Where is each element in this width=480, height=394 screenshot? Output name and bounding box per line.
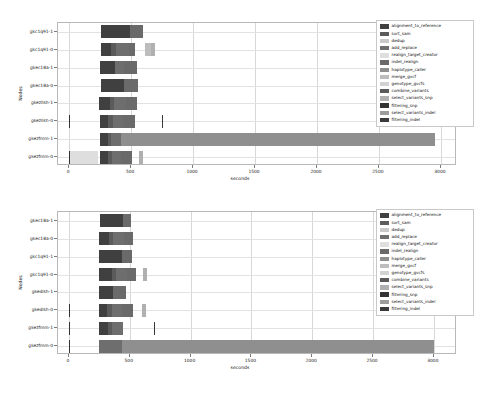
bottom-y-axis-label: Nodes: [18, 275, 23, 289]
legend-item: add_replace: [380, 234, 470, 241]
top-x-axis-label: seconds: [0, 176, 480, 181]
legend-item: genotype_gvcfs: [380, 81, 470, 88]
bar-segment: [100, 115, 108, 128]
x-tick-label: 2500: [366, 358, 377, 363]
legend-label: alignment_to_reference: [392, 213, 442, 217]
bar-segment: [100, 133, 108, 146]
legend-label: dedup: [392, 39, 405, 43]
y-tick-label: gkezfmm-1: [21, 325, 53, 330]
legend-label: sort_sam: [392, 221, 411, 225]
legend-swatch: [380, 75, 389, 79]
y-tick-mark: [54, 138, 57, 139]
legend-swatch: [380, 249, 389, 253]
legend-item: combine_variants: [380, 88, 470, 95]
legend-swatch: [380, 60, 389, 64]
legend-swatch: [380, 228, 389, 232]
legend-item: select_variants_snp: [380, 95, 470, 102]
legend-label: merge_gvcf: [392, 75, 417, 79]
legend-swatch: [380, 32, 389, 36]
bar-segment: [113, 232, 123, 245]
bar-segment: [69, 151, 70, 164]
bar-segment: [69, 322, 70, 335]
legend-item: sort_sam: [380, 30, 470, 37]
bar-row: [58, 133, 455, 146]
bar-row: [58, 151, 455, 164]
y-tick-label: gkc1q91-0: [21, 271, 53, 276]
top-legend: alignment_to_referencesort_samdedupadd_r…: [376, 20, 474, 127]
y-tick-label: gkezfmm-0: [21, 154, 53, 159]
x-tick-label: 1500: [245, 358, 256, 363]
legend-swatch: [380, 300, 389, 304]
x-tick-mark: [68, 354, 69, 357]
y-tick-label: gkedlsh-0: [21, 307, 53, 312]
bar-segment: [69, 304, 70, 317]
legend-swatch: [380, 24, 389, 28]
y-tick-label: gkedlsh-1: [21, 289, 53, 294]
bar-segment: [139, 151, 143, 164]
legend-item: dedup: [380, 226, 470, 233]
x-tick-mark: [250, 354, 251, 357]
x-tick-mark: [316, 165, 317, 168]
bar-segment: [101, 79, 124, 92]
y-tick-mark: [54, 345, 57, 346]
bar-segment: [124, 61, 136, 74]
bar-segment: [101, 25, 130, 38]
figure-page: 050010001500200025003000gkc1q91-1gkc1q91…: [0, 0, 480, 394]
legend-item: filtering_indel: [380, 305, 470, 312]
y-tick-mark: [54, 309, 57, 310]
top-y-axis-label: Nodes: [18, 86, 23, 100]
legend-label: haplotype_caller: [392, 68, 427, 72]
bar-segment: [124, 79, 138, 92]
x-tick-label: 3000: [434, 169, 445, 174]
legend-label: filtering_indel: [392, 118, 421, 122]
legend-swatch: [380, 271, 389, 275]
y-tick-mark: [54, 31, 57, 32]
x-tick-label: 2500: [372, 169, 383, 174]
legend-label: combine_variants: [392, 89, 429, 93]
y-tick-mark: [54, 274, 57, 275]
x-tick-mark: [378, 165, 379, 168]
bar-segment: [115, 61, 124, 74]
bar-segment: [121, 133, 436, 146]
bar-segment: [69, 340, 70, 353]
x-tick-label: 2000: [310, 169, 321, 174]
legend-item: filtering_snp: [380, 102, 470, 109]
bar-segment: [142, 304, 146, 317]
x-tick-mark: [254, 165, 255, 168]
legend-label: dedup: [392, 228, 405, 232]
x-tick-mark: [311, 354, 312, 357]
legend-item: merge_gvcf: [380, 73, 470, 80]
x-tick-label: 2000: [306, 358, 317, 363]
y-tick-mark: [54, 85, 57, 86]
bar-segment: [116, 43, 129, 56]
bar-segment: [100, 214, 123, 227]
y-tick-mark: [54, 102, 57, 103]
y-tick-mark: [54, 156, 57, 157]
legend-item: haplotype_caller: [380, 255, 470, 262]
x-tick-label: 3000: [427, 358, 438, 363]
legend-swatch: [380, 257, 389, 261]
legend-label: alignment_to_reference: [392, 24, 442, 28]
legend-label: add_replace: [392, 46, 417, 50]
legend-item: haplotype_caller: [380, 66, 470, 73]
y-tick-label: gkezllsh-0: [21, 118, 53, 123]
bar-segment: [112, 304, 123, 317]
legend-swatch: [380, 221, 389, 225]
bar-segment: [122, 340, 434, 353]
x-tick-mark: [130, 165, 131, 168]
y-tick-mark: [54, 120, 57, 121]
bar-segment: [111, 133, 120, 146]
legend-label: filtering_snp: [392, 293, 418, 297]
x-tick-label: 500: [125, 358, 133, 363]
bar-segment: [151, 43, 155, 56]
legend-label: indel_realign: [392, 60, 419, 64]
legend-label: filtering_snp: [392, 104, 418, 108]
bar-segment: [127, 268, 136, 281]
bar-segment: [121, 151, 133, 164]
legend-item: genotype_gvcfs: [380, 270, 470, 277]
x-tick-mark: [433, 354, 434, 357]
y-tick-mark: [54, 327, 57, 328]
legend-swatch: [380, 53, 389, 57]
legend-swatch: [380, 39, 389, 43]
x-tick-label: 0: [67, 358, 70, 363]
